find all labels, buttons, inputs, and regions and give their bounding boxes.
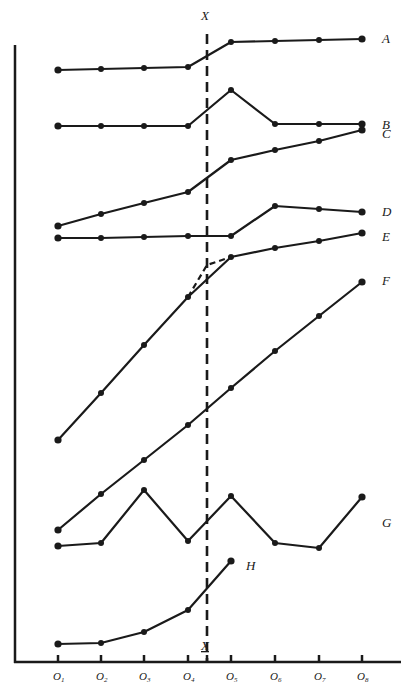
data-point bbox=[185, 189, 191, 195]
x-tick-label: O6 bbox=[270, 670, 282, 684]
data-point bbox=[358, 229, 365, 236]
data-point bbox=[54, 542, 61, 549]
data-point bbox=[272, 147, 278, 153]
x-tick-label: O4 bbox=[183, 670, 195, 684]
data-point bbox=[54, 436, 61, 443]
data-point bbox=[228, 385, 234, 391]
x-tick-label: O5 bbox=[226, 670, 238, 684]
x-tick-label: O2 bbox=[96, 670, 108, 684]
data-point bbox=[141, 123, 147, 129]
data-point bbox=[141, 487, 147, 493]
series-f bbox=[54, 278, 365, 533]
data-point bbox=[316, 238, 322, 244]
data-point bbox=[54, 526, 61, 533]
data-point bbox=[185, 607, 191, 613]
data-point bbox=[185, 64, 191, 70]
series-d bbox=[54, 203, 365, 242]
data-point bbox=[272, 348, 278, 354]
data-point bbox=[272, 121, 278, 127]
series-line bbox=[58, 130, 362, 226]
x-tick-label: O7 bbox=[314, 670, 326, 684]
series-line bbox=[58, 90, 362, 126]
data-point bbox=[98, 390, 104, 396]
series-label-d: D bbox=[381, 204, 392, 219]
data-point bbox=[185, 123, 191, 129]
data-point bbox=[228, 233, 234, 239]
series-label-f: F bbox=[381, 273, 391, 288]
data-point bbox=[272, 203, 278, 209]
data-point bbox=[141, 342, 147, 348]
series-label-a: A bbox=[381, 31, 390, 46]
data-point bbox=[54, 66, 61, 73]
data-point bbox=[272, 245, 278, 251]
data-point bbox=[54, 640, 61, 647]
data-point bbox=[227, 557, 234, 564]
series-label-h: H bbox=[245, 558, 256, 573]
series-label-g: G bbox=[382, 515, 392, 530]
series-b bbox=[54, 87, 365, 130]
data-point bbox=[228, 157, 234, 163]
series-line bbox=[58, 206, 362, 238]
data-point bbox=[316, 206, 322, 212]
data-point bbox=[54, 122, 61, 129]
data-point bbox=[316, 37, 322, 43]
data-point bbox=[141, 457, 147, 463]
data-point bbox=[358, 493, 365, 500]
intervention-label-bottom: X bbox=[200, 638, 210, 653]
series-lines bbox=[54, 35, 365, 647]
data-point bbox=[358, 35, 365, 42]
data-point bbox=[98, 66, 104, 72]
data-point bbox=[185, 538, 191, 544]
data-point bbox=[54, 222, 61, 229]
data-point bbox=[358, 278, 365, 285]
series-a bbox=[54, 35, 365, 73]
data-point bbox=[98, 540, 104, 546]
data-point bbox=[98, 640, 104, 646]
series-label-c: C bbox=[382, 126, 391, 141]
series-e bbox=[54, 229, 365, 443]
data-point bbox=[316, 313, 322, 319]
series-line bbox=[58, 39, 362, 70]
data-point bbox=[358, 126, 365, 133]
data-point bbox=[228, 39, 234, 45]
intervention-label-top: X bbox=[200, 8, 210, 23]
data-point bbox=[141, 629, 147, 635]
data-point bbox=[98, 235, 104, 241]
series-c bbox=[54, 126, 365, 229]
x-tick-label: O8 bbox=[357, 670, 369, 684]
data-point bbox=[358, 208, 365, 215]
data-point bbox=[185, 233, 191, 239]
data-point bbox=[98, 211, 104, 217]
series-labels: ABCDEFGH bbox=[245, 31, 392, 573]
series-label-e: E bbox=[381, 229, 390, 244]
data-point bbox=[185, 422, 191, 428]
data-point bbox=[54, 234, 61, 241]
data-point bbox=[316, 121, 322, 127]
data-point bbox=[98, 491, 104, 497]
series-line bbox=[58, 490, 362, 548]
data-point bbox=[228, 493, 234, 499]
x-axis-tick-labels: O1O2O3O4O5O6O7O8 bbox=[53, 670, 369, 684]
data-point bbox=[272, 38, 278, 44]
data-point bbox=[272, 540, 278, 546]
line-chart: O1O2O3O4O5O6O7O8 X X ABCDEFGH bbox=[0, 0, 412, 688]
data-point bbox=[98, 123, 104, 129]
data-point bbox=[228, 87, 234, 93]
x-tick-label: O1 bbox=[53, 670, 64, 684]
data-point bbox=[141, 200, 147, 206]
data-point bbox=[141, 234, 147, 240]
data-point bbox=[316, 545, 322, 551]
x-tick-label: O3 bbox=[139, 670, 151, 684]
data-point bbox=[141, 65, 147, 71]
data-point bbox=[316, 138, 322, 144]
